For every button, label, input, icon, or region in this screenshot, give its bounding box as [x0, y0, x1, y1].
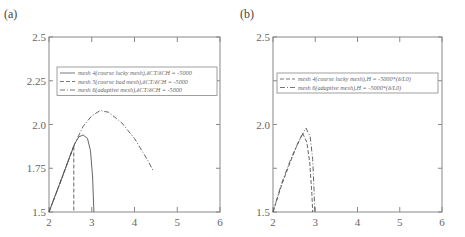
chart-figure: 234561.51.752.02.252.5mesh 4(course luck… — [0, 0, 465, 237]
series-line — [49, 111, 154, 213]
y-tick-label: 2.25 — [27, 75, 47, 87]
y-tick-label: 1.5 — [256, 206, 270, 218]
plot-frame — [49, 37, 220, 212]
y-tick-label: 2.5 — [32, 31, 46, 43]
chart-panel-a: 234561.51.752.02.252.5mesh 4(course luck… — [27, 31, 224, 228]
x-tick-label: 6 — [439, 216, 445, 228]
x-tick-label: 6 — [217, 216, 223, 228]
y-tick-label: 2.0 — [32, 119, 46, 131]
x-tick-label: 5 — [175, 216, 181, 228]
y-tick-label: 1.75 — [27, 162, 47, 174]
legend-entry: mesh 6(adaptive mesh),δCT/δCH = -5000 — [78, 86, 183, 94]
x-tick-label: 2 — [270, 216, 276, 228]
x-tick-label: 3 — [89, 216, 95, 228]
y-tick-label: 2.0 — [256, 119, 270, 131]
chart-panel-b: 234561.52.02.5mesh 4(course lucky mesh),… — [256, 31, 445, 228]
x-tick-label: 3 — [313, 216, 319, 228]
y-tick-label: 1.5 — [32, 206, 46, 218]
legend-entry: mesh 5(course bad mesh),δCT/δCH = -5000 — [78, 78, 189, 86]
x-tick-label: 4 — [355, 216, 361, 228]
legend-entry: mesh 6(adaptive mesh),H = -5000*(δ/L0) — [298, 84, 401, 92]
legend-entry: mesh 4(course lucky mesh),δCT/δCH = -500… — [78, 69, 193, 77]
x-tick-label: 2 — [46, 216, 52, 228]
x-tick-label: 5 — [397, 216, 403, 228]
x-tick-label: 4 — [132, 216, 138, 228]
y-tick-label: 2.5 — [256, 31, 270, 43]
series-line — [273, 128, 315, 212]
series-line — [49, 135, 94, 212]
plot-frame — [273, 37, 442, 212]
legend-entry: mesh 4(course lucky mesh),H = -5000*(δ/L… — [298, 75, 411, 83]
series-line — [273, 133, 313, 212]
